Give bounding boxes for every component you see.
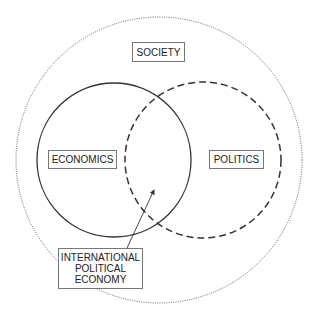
ipe-label-line-1: INTERNATIONAL	[61, 252, 140, 263]
ipe-label-line-3: ECONOMY	[75, 274, 127, 285]
politics-label: POLITICS	[209, 150, 264, 169]
ipe-label-line-2: POLITICAL	[75, 263, 126, 274]
economics-label-text: ECONOMICS	[52, 154, 114, 165]
ipe-label: INTERNATIONAL POLITICAL ECONOMY	[58, 248, 143, 289]
society-label-text: SOCIETY	[137, 47, 181, 58]
economics-label: ECONOMICS	[48, 150, 117, 169]
society-label: SOCIETY	[132, 42, 185, 62]
ipe-arrow	[127, 190, 154, 248]
politics-label-text: POLITICS	[214, 154, 260, 165]
